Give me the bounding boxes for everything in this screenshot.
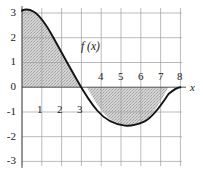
plot-area	[0, 0, 203, 177]
y-tick-label-3: 3	[2, 7, 16, 18]
x-tick-label-7: 7	[158, 71, 164, 82]
y-tick-label-0: 0	[2, 81, 16, 92]
y-tick-label-neg3: -3	[0, 155, 16, 166]
x-tick-label-8: 8	[177, 71, 183, 82]
x-axis-label: x	[190, 81, 195, 93]
x-tick-label-6: 6	[138, 71, 144, 82]
y-tick-label-2: 2	[2, 32, 16, 43]
y-tick-label-neg1: -1	[0, 106, 16, 117]
x-tick-label-4: 4	[98, 71, 104, 82]
positive-shaded-region	[22, 9, 87, 87]
x-tick-label-3: 3	[77, 104, 83, 115]
y-tick-label-1: 1	[2, 56, 16, 67]
y-tick-label-neg2: -2	[0, 131, 16, 142]
curve-label-fx: f (x)	[81, 40, 100, 52]
function-graph-figure: 3 2 1 0 -1 -2 -3 1 2 3 4 5 6 7 8 f (x) x	[0, 0, 203, 177]
x-tick-label-1: 1	[37, 104, 43, 115]
x-tick-label-2: 2	[57, 104, 63, 115]
x-tick-label-5: 5	[118, 71, 124, 82]
negative-shaded-region	[87, 87, 169, 126]
